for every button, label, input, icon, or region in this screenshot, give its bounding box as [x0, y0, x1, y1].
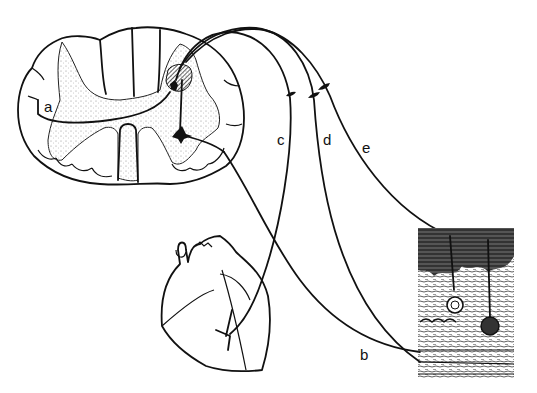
label-a: a: [44, 98, 53, 115]
ventral-root-lobes-left: [38, 150, 112, 177]
lateral-lobe-lines: [28, 68, 44, 100]
afferent-fibers: c d e b: [176, 28, 450, 363]
spinal-afferents-diagram: a c d e b: [0, 0, 537, 393]
label-c: c: [277, 131, 285, 148]
heart: [162, 236, 270, 371]
pacinian-corpuscle-left: [447, 297, 463, 313]
pacinian-corpuscle-right: [481, 317, 499, 335]
coronary-branches: [216, 310, 232, 350]
label-e: e: [362, 139, 370, 156]
dorsal-column-divider-right: [158, 30, 160, 92]
fiber-d-path: [180, 28, 420, 362]
label-d: d: [323, 131, 331, 148]
fiber-c-ganglion-cell: [286, 92, 296, 96]
dorsal-horn-nucleus: [166, 64, 192, 91]
dorsal-column-divider-left: [100, 40, 106, 94]
label-b: b: [360, 346, 368, 363]
skin-section: [418, 228, 514, 378]
fiber-d-ganglion-cell: [308, 92, 320, 98]
heart-septal-line: [162, 290, 214, 326]
fiber-b-path: [224, 152, 420, 352]
dorsal-median-septum: [132, 28, 134, 96]
